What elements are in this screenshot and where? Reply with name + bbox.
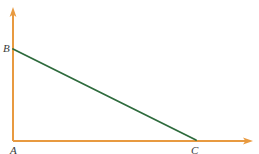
vertex-label-b: B	[3, 43, 10, 54]
diagram-canvas	[0, 0, 259, 154]
vertex-label-a: A	[10, 145, 17, 154]
geometry-figure: B A C	[0, 0, 259, 154]
vertex-label-c: C	[191, 145, 198, 154]
hypotenuse-segment-bc	[13, 49, 196, 140]
